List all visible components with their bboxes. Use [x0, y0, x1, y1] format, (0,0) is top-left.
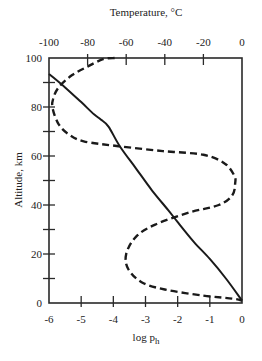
left-axis-tick-label: 80 [31, 101, 43, 113]
bottom-axis-tick-label: 0 [239, 313, 245, 325]
pressure-curve [49, 74, 242, 301]
bottom-axis-tick-label: -5 [77, 313, 87, 325]
bottom-axis-label-main: log p [133, 331, 156, 343]
left-axis-tick-label: 60 [31, 150, 43, 162]
bottom-axis-tick-label: -4 [109, 313, 119, 325]
bottom-axis-tick-label: -2 [173, 313, 182, 325]
left-axis-tick-label: 20 [31, 248, 43, 260]
top-axis-tick-label: -80 [80, 36, 95, 48]
left-axis: 020406080100 [26, 52, 56, 309]
top-axis-tick-label: -40 [157, 36, 172, 48]
top-axis-tick-label: -100 [39, 36, 60, 48]
top-axis-label: Temperature, °C [110, 6, 183, 18]
left-axis-tick-label: 0 [37, 297, 43, 309]
bottom-axis-tick-label: -1 [205, 313, 214, 325]
plot-curves [49, 58, 242, 301]
top-axis-tick-label: 0 [239, 36, 245, 48]
left-axis-label: Altitude, km [12, 152, 24, 208]
top-axis: -100-80-60-40-200 [39, 36, 245, 65]
top-axis-tick-label: -20 [196, 36, 211, 48]
bottom-axis-tick-label: -6 [44, 313, 54, 325]
chart: -100-80-60-40-200 -6-5-4-3-2-10 02040608… [0, 0, 262, 361]
left-axis-tick-label: 100 [26, 52, 43, 64]
bottom-axis: -6-5-4-3-2-10 [44, 296, 245, 325]
bottom-axis-tick-label: -3 [141, 313, 151, 325]
top-axis-tick-label: -60 [119, 36, 134, 48]
left-axis-tick-label: 40 [31, 199, 43, 211]
bottom-axis-label-subscript: h [155, 336, 160, 346]
bottom-axis-label: log ph [133, 331, 160, 346]
